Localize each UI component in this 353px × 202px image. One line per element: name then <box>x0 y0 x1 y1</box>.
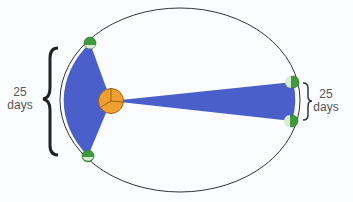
left-duration-unit: days <box>2 99 38 112</box>
planet-at-aphelion-end <box>284 115 298 127</box>
right-duration-unit: days <box>306 101 346 114</box>
left-brace <box>43 48 58 155</box>
right-duration-label: 25 days <box>306 88 346 114</box>
left-duration-label: 25 days <box>2 86 38 112</box>
planet-at-aphelion-start <box>285 76 299 88</box>
kepler-diagram <box>0 0 353 202</box>
sun <box>99 89 124 114</box>
swept-area-far <box>111 82 295 121</box>
planet-at-perihelion-end <box>82 150 94 162</box>
planet-at-perihelion-start <box>84 37 96 49</box>
